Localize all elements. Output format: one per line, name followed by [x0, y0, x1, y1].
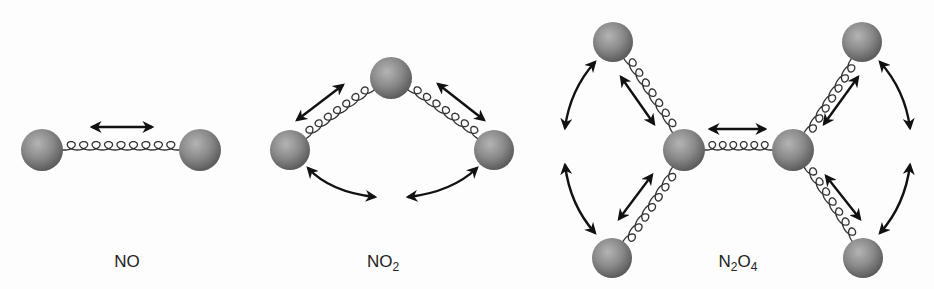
vibration-diagram: NO NO2 N2O4 — [0, 0, 934, 289]
label-no2: NO2 — [367, 252, 399, 274]
atom-sphere — [843, 238, 883, 278]
spring-bond — [407, 87, 480, 140]
label-n2o4-main: N — [719, 252, 731, 271]
stretch-arrow — [619, 175, 652, 219]
bend-arrow — [565, 165, 595, 233]
label-n2o4: N2O4 — [719, 252, 758, 274]
label-n2o4-sub2: 4 — [751, 260, 758, 274]
atom-sphere — [179, 129, 221, 171]
bend-arrow — [880, 62, 910, 128]
label-no2-sub: 2 — [392, 260, 399, 274]
label-n2o4-tail: O — [738, 252, 751, 271]
spring-bond — [305, 87, 376, 140]
atom-sphere — [270, 130, 310, 170]
spring-bond — [61, 142, 181, 150]
atom-sphere — [593, 22, 633, 62]
label-no-text: NO — [114, 252, 140, 271]
label-no2-main: NO — [367, 252, 393, 271]
spring-bond — [703, 142, 774, 150]
label-n2o4-sub1: 2 — [731, 260, 738, 274]
bend-arrow — [408, 168, 477, 197]
atom-sphere — [663, 129, 705, 171]
bend-arrow — [880, 165, 910, 233]
bend-arrow — [308, 168, 375, 197]
spring-bond — [623, 57, 676, 134]
atom-sphere — [772, 129, 814, 171]
atom-sphere — [21, 129, 63, 171]
atom-sphere — [592, 238, 632, 278]
atom-sphere — [370, 57, 412, 99]
bend-arrow — [565, 62, 595, 128]
label-no: NO — [114, 252, 140, 272]
stretch-arrow — [297, 85, 343, 120]
atom-sphere — [474, 130, 514, 170]
diagram-canvas — [0, 0, 934, 289]
spring-bond — [803, 57, 855, 134]
atom-sphere — [842, 22, 882, 62]
